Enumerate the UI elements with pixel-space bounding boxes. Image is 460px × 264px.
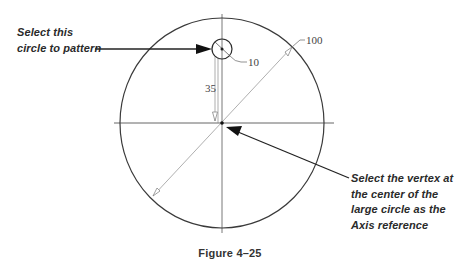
- offset-value[interactable]: 35: [205, 82, 217, 94]
- small-circle-leader: [230, 56, 247, 62]
- small-circle-diameter-value[interactable]: 10: [248, 56, 260, 68]
- figure-caption: Figure 4–25: [0, 247, 460, 259]
- offset-arrowhead: [213, 112, 218, 121]
- callout-arrow-circle-head: [196, 44, 212, 54]
- callout-arrow-vertex-head: [226, 126, 242, 136]
- callout-arrow-vertex-shaft: [238, 132, 349, 178]
- diameter-value[interactable]: 100: [306, 34, 323, 46]
- center-vertex[interactable]: [220, 121, 224, 125]
- small-circle-center: [221, 48, 224, 51]
- diameter-leader: [292, 40, 305, 47]
- figure-canvas: 100 10 35 Select this circle to pattern …: [0, 0, 460, 264]
- callout-select-vertex: Select the vertex at the center of the l…: [351, 171, 453, 233]
- callout-select-circle: Select this circle to pattern: [17, 25, 101, 56]
- diameter-arrowhead-top: [285, 47, 292, 56]
